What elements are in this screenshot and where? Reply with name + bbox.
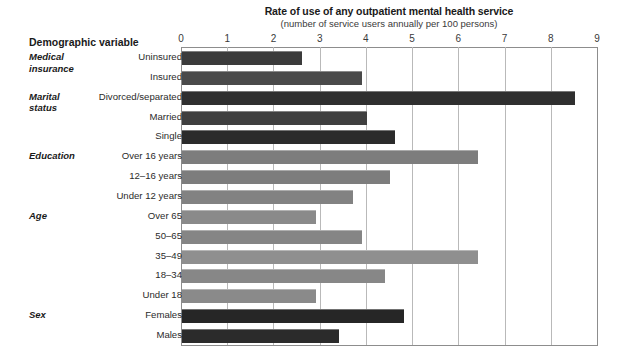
row-label: Under 18 [143,288,182,301]
x-tick-9: 9 [594,33,600,44]
table-row: Over 16 years [0,147,628,167]
row-label: Uninsured [138,50,182,63]
bar [182,289,316,303]
bar [182,150,478,164]
row-label: 12–16 years [129,169,182,182]
bar [182,130,395,144]
row-label: 18–34 [155,268,182,281]
x-tick-1: 1 [224,33,230,44]
bar [182,210,316,224]
table-row: Uninsured [0,48,628,68]
x-tick-4: 4 [363,33,369,44]
bar [182,250,478,264]
row-label: Insured [150,70,182,83]
row-label: Married [149,110,182,123]
demographic-variable-header: Demographic variable [29,36,139,48]
x-tick-2: 2 [271,33,277,44]
x-tick-6: 6 [456,33,462,44]
bar [182,111,367,125]
table-row: 18–34 [0,266,628,286]
bar [182,91,575,105]
bar [182,309,404,323]
bar [182,329,339,343]
row-label: Under 12 years [116,189,182,202]
x-tick-5: 5 [409,33,415,44]
bar [182,269,385,283]
row-label: Males [156,328,182,341]
table-row: 35–49 [0,247,628,267]
x-tick-8: 8 [548,33,554,44]
row-label: Over 16 years [122,149,182,162]
table-row: Females [0,306,628,326]
chart-root: Rate of use of any outpatient mental hea… [0,0,628,356]
row-label: Females [145,308,182,321]
table-row: Divorced/separated [0,88,628,108]
row-label: 35–49 [155,249,182,262]
chart-title: Rate of use of any outpatient mental hea… [181,5,597,17]
bar [182,190,353,204]
x-tick-0: 0 [178,33,184,44]
table-row: Insured [0,68,628,88]
bar [182,230,362,244]
table-row: 12–16 years [0,167,628,187]
row-label: Single [155,129,182,142]
bar [182,170,390,184]
table-row: Over 65 [0,207,628,227]
row-label: Over 65 [148,209,182,222]
table-row: Single [0,127,628,147]
row-label: Divorced/separated [99,90,182,103]
table-row: Married [0,108,628,128]
table-row: 50–65 [0,227,628,247]
bar [182,51,302,65]
chart-subtitle: (number of service users annually per 10… [181,18,597,29]
x-tick-7: 7 [502,33,508,44]
x-tick-3: 3 [317,33,323,44]
row-label: 50–65 [155,229,182,242]
table-row: Under 18 [0,286,628,306]
bar [182,71,362,85]
table-row: Males [0,326,628,346]
table-row: Under 12 years [0,187,628,207]
